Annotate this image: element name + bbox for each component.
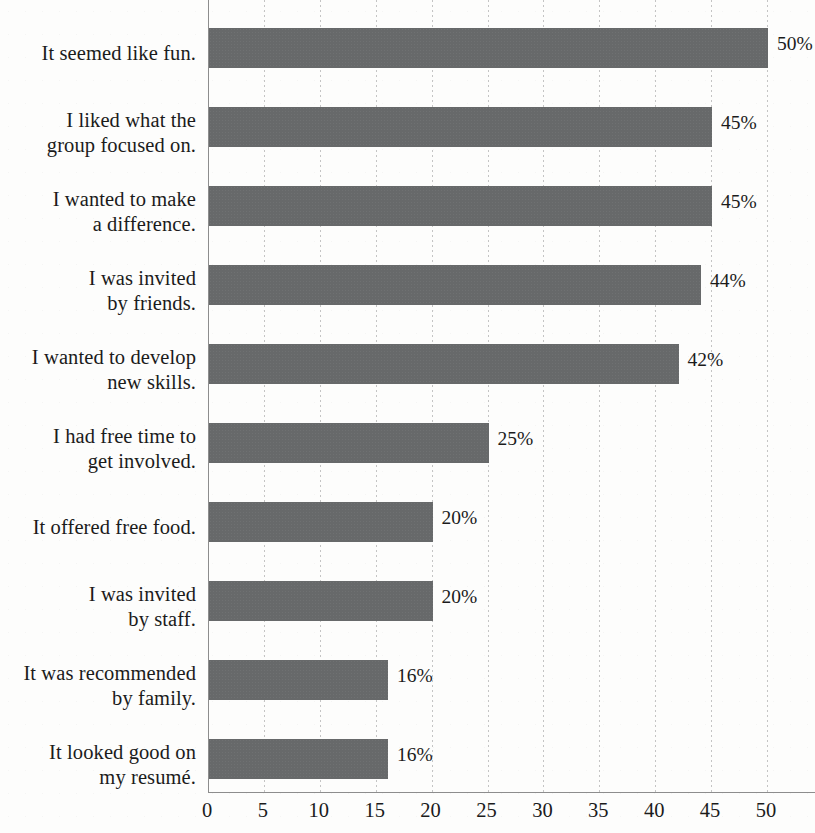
bar-row: I wanted to develop new skills.42% xyxy=(0,326,815,405)
bar xyxy=(209,344,679,384)
category-label: It offered free food. xyxy=(0,515,196,540)
bar-row: I was invited by friends.44% xyxy=(0,247,815,326)
horizontal-bar-chart: It seemed like fun.50%I liked what the g… xyxy=(0,0,815,833)
bar-container xyxy=(209,326,679,405)
x-tick-label: 35 xyxy=(568,795,628,825)
x-tick-label: 20 xyxy=(401,795,461,825)
bar-container xyxy=(209,484,433,563)
bar xyxy=(209,660,388,700)
bar-container xyxy=(209,10,768,89)
bar-row: I was invited by staff.20% xyxy=(0,563,815,642)
bar xyxy=(209,265,701,305)
bar-value-label: 16% xyxy=(397,744,433,766)
bar-value-label: 42% xyxy=(688,349,724,371)
bar-row: It was recommended by family.16% xyxy=(0,642,815,721)
bar xyxy=(209,107,712,147)
bar-value-label: 50% xyxy=(777,33,813,55)
category-label: I was invited by staff. xyxy=(0,582,196,632)
bar-row: I wanted to make a difference.45% xyxy=(0,168,815,247)
x-tick-label: 5 xyxy=(233,795,293,825)
bar-value-label: 45% xyxy=(721,191,757,213)
bar-container xyxy=(209,563,433,642)
bar-value-label: 16% xyxy=(397,665,433,687)
bar xyxy=(209,28,768,68)
category-label: I was invited by friends. xyxy=(0,266,196,316)
x-tick-label: 25 xyxy=(457,795,517,825)
x-tick-label: 45 xyxy=(680,795,740,825)
bar-value-label: 45% xyxy=(721,112,757,134)
bar-container xyxy=(209,721,388,800)
bar-value-label: 20% xyxy=(442,586,478,608)
category-label: It was recommended by family. xyxy=(0,661,196,711)
bar xyxy=(209,502,433,542)
category-label: I wanted to develop new skills. xyxy=(0,345,196,395)
x-tick-label: 10 xyxy=(289,795,349,825)
bar-value-label: 25% xyxy=(498,428,534,450)
bar-container xyxy=(209,89,712,168)
x-axis-tick-labels: 05101520253035404550 xyxy=(0,795,815,833)
bar xyxy=(209,423,489,463)
bar xyxy=(209,581,433,621)
category-label: It looked good on my resumé. xyxy=(0,740,196,790)
bar-row: It looked good on my resumé.16% xyxy=(0,721,815,800)
bar-value-label: 44% xyxy=(710,270,746,292)
bar-row: It offered free food.20% xyxy=(0,484,815,563)
x-tick-label: 30 xyxy=(512,795,572,825)
bar-container xyxy=(209,642,388,721)
x-tick-label: 15 xyxy=(345,795,405,825)
bar xyxy=(209,186,712,226)
category-label: I had free time to get involved. xyxy=(0,424,196,474)
category-label: It seemed like fun. xyxy=(0,41,196,66)
category-label: I wanted to make a difference. xyxy=(0,187,196,237)
bar-row: I liked what the group focused on.45% xyxy=(0,89,815,168)
x-tick-label: 40 xyxy=(624,795,684,825)
bar-container xyxy=(209,247,701,326)
bar-container xyxy=(209,405,489,484)
category-label: I liked what the group focused on. xyxy=(0,108,196,158)
bar-row: It seemed like fun.50% xyxy=(0,10,815,89)
bar-row: I had free time to get involved.25% xyxy=(0,405,815,484)
bar-value-label: 20% xyxy=(442,507,478,529)
x-tick-label: 0 xyxy=(177,795,237,825)
bar-container xyxy=(209,168,712,247)
bar xyxy=(209,739,388,779)
x-tick-label: 50 xyxy=(736,795,796,825)
